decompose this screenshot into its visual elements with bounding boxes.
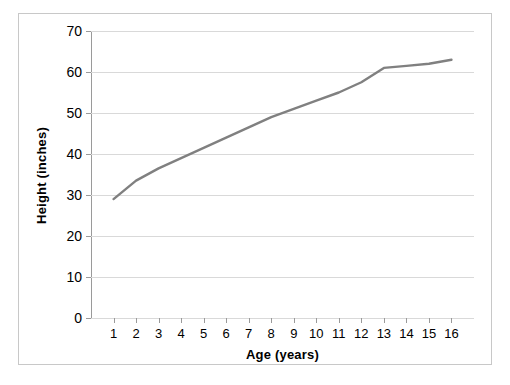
y-axis-title-label: Height (inches) [34,127,49,224]
y-tick-label: 70 [66,24,82,38]
x-tick-mark [406,318,407,323]
x-tick-mark [181,318,182,323]
x-tick-mark [339,318,340,323]
x-tick-label: 4 [177,327,184,340]
x-tick-label: 16 [444,327,458,340]
plot-area: 010203040506070 12345678910111213141516 [91,31,474,318]
y-tick-label: 10 [66,270,82,284]
x-tick-mark [204,318,205,323]
gridline [91,318,474,319]
x-tick-mark [271,318,272,323]
x-tick-label: 9 [290,327,297,340]
x-tick-label: 8 [268,327,275,340]
x-tick-label: 12 [354,327,368,340]
x-tick-label: 5 [200,327,207,340]
y-tick-label: 50 [66,106,82,120]
x-tick-mark [429,318,430,323]
x-tick-mark [384,318,385,323]
x-tick-label: 7 [245,327,252,340]
x-tick-label: 14 [399,327,413,340]
x-tick-mark [226,318,227,323]
x-axis-title: Age (years) [91,347,474,362]
chart-figure: Height (inches) 010203040506070 12345678… [18,13,492,365]
x-tick-label: 10 [309,327,323,340]
y-tick-label: 0 [74,311,82,325]
x-tick-mark [451,318,452,323]
x-tick-mark [361,318,362,323]
x-tick-label: 1 [110,327,117,340]
y-tick-label: 60 [66,65,82,79]
x-axis-title-label: Age (years) [246,347,319,362]
x-tick-mark [316,318,317,323]
x-tick-label: 15 [422,327,436,340]
line-series-layer [91,31,474,318]
y-tick-mark [86,318,91,319]
y-axis-title: Height (inches) [33,31,49,319]
y-tick-label: 40 [66,147,82,161]
x-tick-mark [294,318,295,323]
x-tick-label: 13 [377,327,391,340]
x-tick-label: 11 [332,327,346,340]
x-tick-mark [114,318,115,323]
x-tick-mark [249,318,250,323]
x-tick-label: 6 [223,327,230,340]
x-tick-mark [136,318,137,323]
y-tick-label: 30 [66,188,82,202]
x-tick-mark [159,318,160,323]
x-tick-label: 2 [132,327,139,340]
x-tick-label: 3 [155,327,162,340]
y-tick-label: 20 [66,229,82,243]
height-line-series [114,60,452,199]
